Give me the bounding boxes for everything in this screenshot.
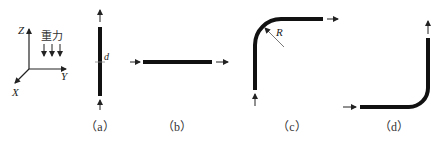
pipe-segment bbox=[98, 27, 102, 96]
gravity-label: 重力 bbox=[41, 29, 63, 43]
x-axis-label: X bbox=[11, 86, 20, 98]
flow-configuration-diagram: Z Y X 重力 d （a） （b） R （c） （d） bbox=[0, 0, 441, 146]
panel-d-caption: （d） bbox=[379, 120, 409, 134]
panel-c-caption: （c） bbox=[277, 120, 306, 134]
panel-c-bend-up-to-horizontal: R （c） bbox=[255, 19, 338, 134]
pipe-segment bbox=[143, 60, 212, 64]
pipe-bend bbox=[255, 19, 323, 90]
gravity-indicator: 重力 bbox=[41, 29, 63, 56]
radius-label: R bbox=[275, 26, 283, 38]
pipe-bend bbox=[360, 38, 428, 107]
panel-b-horizontal-pipe: （b） bbox=[130, 60, 228, 134]
y-axis-label: Y bbox=[61, 70, 69, 82]
panel-d-bend-horizontal-to-up: （d） bbox=[343, 21, 428, 134]
x-axis-arrow-icon bbox=[15, 69, 29, 83]
z-axis-label: Z bbox=[18, 24, 25, 36]
panel-a-caption: （a） bbox=[85, 120, 114, 134]
diameter-label: d bbox=[104, 51, 110, 62]
panel-a-vertical-pipe: d （a） bbox=[85, 10, 114, 134]
panel-b-caption: （b） bbox=[162, 120, 192, 134]
